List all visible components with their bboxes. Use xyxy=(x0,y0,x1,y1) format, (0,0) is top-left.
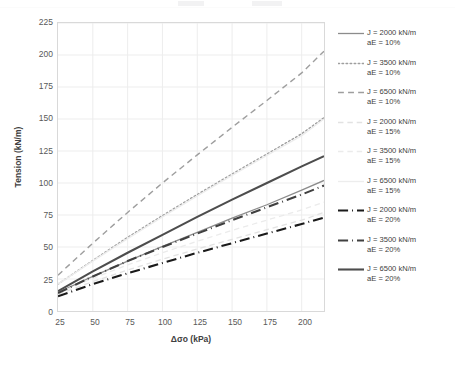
legend-label-line1: J = 6500 kN/m xyxy=(367,176,416,186)
legend-label: J = 2000 kN/maE = 10% xyxy=(367,28,416,48)
legend-item[interactable]: J = 3500 kN/maE = 20% xyxy=(338,235,453,257)
legend-item[interactable]: J = 2000 kN/maE = 20% xyxy=(338,205,453,227)
legend-label-line1: J = 2000 kN/m xyxy=(367,28,416,38)
legend-label-line2: aE = 15% xyxy=(367,127,416,137)
x-tick-label: 125 xyxy=(180,318,220,327)
legend-line-swatch xyxy=(338,59,364,68)
legend-line-swatch xyxy=(338,88,364,97)
legend-label: J = 2000 kN/maE = 15% xyxy=(367,117,416,137)
legend-label-line1: J = 3500 kN/m xyxy=(367,235,416,245)
legend-label-line1: J = 3500 kN/m xyxy=(367,146,416,156)
series-line xyxy=(58,156,324,291)
legend-item[interactable]: J = 2000 kN/maE = 10% xyxy=(338,28,453,50)
legend-label: J = 3500 kN/maE = 15% xyxy=(367,146,416,166)
legend-line-swatch xyxy=(338,118,364,127)
legend-label: J = 6500 kN/maE = 20% xyxy=(367,264,416,284)
legend-label-line2: aE = 20% xyxy=(367,215,416,225)
legend-label: J = 6500 kN/maE = 10% xyxy=(367,87,416,107)
legend: J = 2000 kN/maE = 10%J = 3500 kN/maE = 1… xyxy=(338,28,453,294)
x-tick-label: 175 xyxy=(250,318,290,327)
legend-line-swatch xyxy=(338,206,364,215)
legend-label-line2: aE = 20% xyxy=(367,245,416,255)
series-line xyxy=(58,51,324,275)
legend-line-swatch xyxy=(338,236,364,245)
legend-label: J = 2000 kN/maE = 20% xyxy=(367,205,416,225)
legend-item[interactable]: J = 3500 kN/maE = 10% xyxy=(338,58,453,80)
series-line xyxy=(58,119,324,284)
legend-label-line1: J = 6500 kN/m xyxy=(367,87,416,97)
legend-label-line1: J = 2000 kN/m xyxy=(367,205,416,215)
legend-line-swatch xyxy=(338,177,364,186)
legend-line-swatch xyxy=(338,29,364,38)
legend-label-line2: aE = 20% xyxy=(367,274,416,284)
legend-item[interactable]: J = 3500 kN/maE = 15% xyxy=(338,146,453,168)
legend-label-line2: aE = 15% xyxy=(367,186,416,196)
x-tick-label: 25 xyxy=(40,318,80,327)
series-line xyxy=(58,180,324,292)
legend-label: J = 6500 kN/maE = 15% xyxy=(367,176,416,196)
legend-label-line1: J = 6500 kN/m xyxy=(367,264,416,274)
legend-item[interactable]: J = 6500 kN/maE = 20% xyxy=(338,264,453,286)
legend-label-line2: aE = 10% xyxy=(367,68,416,78)
x-tick-label: 150 xyxy=(215,318,255,327)
plot-canvas xyxy=(58,23,324,311)
plot-area xyxy=(57,22,325,312)
x-tick-label: 75 xyxy=(110,318,150,327)
series-line xyxy=(58,118,324,284)
legend-line-swatch xyxy=(338,147,364,156)
x-tick-label: 50 xyxy=(75,318,115,327)
series-lines xyxy=(58,51,324,296)
legend-item[interactable]: J = 2000 kN/maE = 15% xyxy=(338,117,453,139)
legend-label-line1: J = 2000 kN/m xyxy=(367,117,416,127)
legend-item[interactable]: J = 6500 kN/maE = 10% xyxy=(338,87,453,109)
legend-label: J = 3500 kN/maE = 20% xyxy=(367,235,416,255)
legend-label-line2: aE = 10% xyxy=(367,38,416,48)
legend-label-line2: aE = 15% xyxy=(367,156,416,166)
x-tick-label: 200 xyxy=(285,318,325,327)
legend-label: J = 3500 kN/maE = 10% xyxy=(367,58,416,78)
legend-label-line1: J = 3500 kN/m xyxy=(367,58,416,68)
legend-label-line2: aE = 10% xyxy=(367,97,416,107)
x-tick-label: 100 xyxy=(145,318,185,327)
x-axis-title: Δσo (kPa) xyxy=(57,334,325,344)
legend-line-swatch xyxy=(338,265,364,274)
legend-item[interactable]: J = 6500 kN/maE = 15% xyxy=(338,176,453,198)
chart-figure: Tension (kN/m) 225 200 175 150 125 100 7… xyxy=(0,0,455,371)
